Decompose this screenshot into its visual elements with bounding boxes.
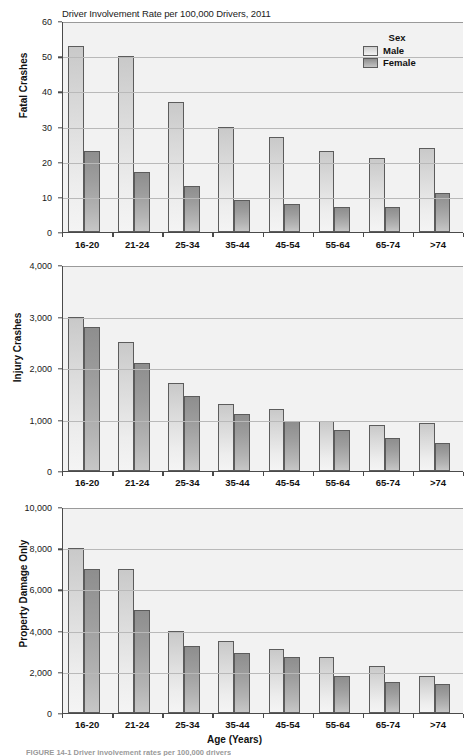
y-axis-tick-label: 2,000 bbox=[29, 668, 52, 677]
bar-male[interactable] bbox=[218, 127, 234, 233]
y-axis-tick-label: 3,000 bbox=[29, 313, 52, 322]
bar-female[interactable] bbox=[184, 186, 200, 232]
bar-female[interactable] bbox=[234, 653, 250, 713]
x-axis-tick-mark bbox=[212, 472, 213, 476]
x-axis-tick-mark bbox=[363, 233, 364, 237]
bar-male[interactable] bbox=[419, 423, 435, 471]
x-axis-tick-mark bbox=[363, 472, 364, 476]
x-axis-tick-label: 65-74 bbox=[376, 719, 400, 730]
legend-item-female[interactable]: Female bbox=[355, 57, 439, 68]
bar-male[interactable] bbox=[68, 46, 84, 232]
bar-female[interactable] bbox=[134, 363, 150, 471]
x-axis-tick-label: >74 bbox=[430, 477, 446, 488]
x-axis-tick-mark bbox=[162, 233, 163, 237]
bar-group bbox=[163, 508, 213, 713]
x-axis-tick-mark bbox=[62, 714, 63, 718]
x-axis-tick-mark bbox=[313, 714, 314, 718]
x-axis-tick-mark bbox=[62, 233, 63, 237]
bar-female[interactable] bbox=[84, 327, 100, 471]
bar-female[interactable] bbox=[184, 396, 200, 471]
x-axis-tick-mark bbox=[413, 233, 414, 237]
x-axis-tick-mark bbox=[112, 233, 113, 237]
y-axis-tick-label: 30 bbox=[42, 123, 52, 132]
y-axis-tick-label: 40 bbox=[42, 88, 52, 97]
bar-female[interactable] bbox=[284, 204, 300, 232]
bar-male[interactable] bbox=[369, 158, 385, 232]
x-axis-tick-mark bbox=[162, 472, 163, 476]
y-axis-tick-label: 1,000 bbox=[29, 416, 52, 425]
bar-female[interactable] bbox=[435, 684, 451, 713]
legend-label-male: Male bbox=[383, 45, 404, 56]
bar-group bbox=[213, 508, 263, 713]
gridline bbox=[63, 163, 463, 164]
bar-male[interactable] bbox=[118, 56, 134, 232]
x-axis-tick-mark bbox=[313, 472, 314, 476]
bar-female[interactable] bbox=[385, 682, 401, 713]
gridline bbox=[63, 673, 463, 674]
bar-male[interactable] bbox=[319, 657, 335, 713]
bar-female[interactable] bbox=[234, 414, 250, 471]
y-axis-tick-label: 0 bbox=[47, 468, 52, 477]
bar-male[interactable] bbox=[419, 148, 435, 232]
bar-male[interactable] bbox=[269, 649, 285, 713]
bar-female[interactable] bbox=[134, 172, 150, 232]
x-axis-tick-label: 35-44 bbox=[225, 239, 249, 250]
x-axis-tick-label: 55-64 bbox=[326, 239, 350, 250]
bar-male[interactable] bbox=[218, 404, 234, 471]
bar-group bbox=[314, 508, 364, 713]
x-axis-tick-mark bbox=[313, 233, 314, 237]
bar-female[interactable] bbox=[385, 207, 401, 232]
plot-area-injury-crashes bbox=[62, 266, 463, 472]
y-axis-title-injury-crashes: Injury Crashes bbox=[12, 303, 23, 393]
bar-female[interactable] bbox=[334, 430, 350, 471]
bar-female[interactable] bbox=[284, 421, 300, 471]
y-axis-tick-label: 10 bbox=[42, 193, 52, 202]
bar-male[interactable] bbox=[218, 641, 234, 713]
bar-male[interactable] bbox=[369, 425, 385, 471]
bar-male[interactable] bbox=[68, 317, 84, 472]
y-axis-tick-label: 0 bbox=[47, 710, 52, 719]
bar-female[interactable] bbox=[134, 610, 150, 713]
legend-item-male[interactable]: Male bbox=[355, 45, 439, 56]
bar-male[interactable] bbox=[168, 383, 184, 471]
y-axis-tick-label: 2,000 bbox=[29, 365, 52, 374]
gridline bbox=[63, 198, 463, 199]
bar-female[interactable] bbox=[435, 193, 451, 232]
bar-female[interactable] bbox=[184, 646, 200, 713]
x-axis-tick-mark bbox=[363, 714, 364, 718]
bar-female[interactable] bbox=[385, 438, 401, 471]
legend-swatch-female-icon bbox=[363, 58, 378, 68]
x-axis-tick-mark bbox=[162, 714, 163, 718]
bar-female[interactable] bbox=[234, 200, 250, 232]
bar-male[interactable] bbox=[168, 102, 184, 232]
gridline bbox=[63, 590, 463, 591]
bar-female[interactable] bbox=[334, 676, 350, 713]
y-axis-tick-label: 6,000 bbox=[29, 586, 52, 595]
bar-male[interactable] bbox=[269, 137, 285, 232]
bar-male[interactable] bbox=[319, 421, 335, 471]
y-axis-tick-label: 50 bbox=[42, 53, 52, 62]
x-axis-tick-label: 25-34 bbox=[175, 477, 199, 488]
x-axis-tick-mark bbox=[112, 472, 113, 476]
x-axis-tick-label: 55-64 bbox=[326, 477, 350, 488]
bar-male[interactable] bbox=[269, 409, 285, 471]
legend: Sex Male Female bbox=[351, 29, 443, 72]
bar-male[interactable] bbox=[168, 631, 184, 713]
bar-male[interactable] bbox=[419, 676, 435, 713]
bar-female[interactable] bbox=[435, 443, 451, 471]
bar-group bbox=[264, 508, 314, 713]
bar-female[interactable] bbox=[334, 207, 350, 232]
y-axis-title-property-damage-only: Property Damage Only bbox=[18, 519, 29, 669]
bar-group bbox=[113, 508, 163, 713]
bar-female[interactable] bbox=[284, 657, 300, 713]
gridline bbox=[63, 92, 463, 93]
x-axis-tick-label: >74 bbox=[430, 719, 446, 730]
x-axis-tick-mark bbox=[212, 233, 213, 237]
x-axis-tick-mark bbox=[263, 472, 264, 476]
chart-panel-property-damage-only: Property Damage Only 02,0004,0006,0008,0… bbox=[0, 500, 469, 756]
x-axis-tick-label: 55-64 bbox=[326, 719, 350, 730]
chart-supertitle: Driver Involvement Rate per 100,000 Driv… bbox=[62, 8, 271, 19]
x-axis-tick-label: 35-44 bbox=[225, 477, 249, 488]
bar-male[interactable] bbox=[68, 548, 84, 713]
bar-male[interactable] bbox=[118, 342, 134, 471]
